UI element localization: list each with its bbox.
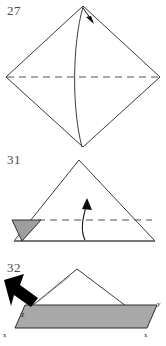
- corner-label-x-right: x: [144, 331, 148, 339]
- diagram-31-canvas: [0, 148, 166, 258]
- triangle-outline: [14, 160, 155, 241]
- figure-step-32: 32 z x x y: [0, 258, 166, 346]
- corner-label-x-left: x: [3, 331, 7, 339]
- shaded-band: [15, 305, 157, 328]
- push-arrow-32: [4, 274, 38, 307]
- diagram-27-canvas: [0, 0, 166, 148]
- diagram-sheet: 27 31: [0, 0, 166, 346]
- triangle-outline: [32, 269, 126, 306]
- figure-step-27: 27: [0, 0, 166, 148]
- diagram-32-canvas: z x x y: [0, 258, 166, 346]
- corner-label-y-right: y: [157, 300, 161, 308]
- figure-step-31: 31: [0, 148, 166, 258]
